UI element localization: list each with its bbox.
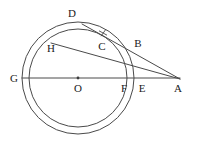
point-label-f: F <box>121 83 127 94</box>
point-label-c: C <box>98 41 105 52</box>
point-label-b: B <box>134 38 141 49</box>
tick-marks-group <box>99 29 107 36</box>
point-label-h: H <box>47 43 55 54</box>
chord-line-HF <box>51 43 180 79</box>
geometry-canvas <box>0 0 198 151</box>
point-label-o: O <box>74 83 82 94</box>
secant-line-DCBA <box>82 24 180 79</box>
point-label-e: E <box>139 83 146 94</box>
center-dot <box>77 77 80 80</box>
center-point-marker <box>77 77 80 80</box>
point-label-a: A <box>174 83 182 94</box>
point-label-d: D <box>68 8 76 19</box>
geometry-figure: DCBHGOFEA <box>0 0 198 151</box>
point-label-g: G <box>10 73 18 84</box>
